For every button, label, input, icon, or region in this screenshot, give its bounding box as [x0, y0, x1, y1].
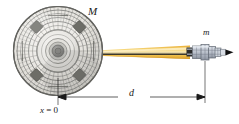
spacecraft-icon: [187, 45, 234, 61]
origin-label: x = 0: [40, 106, 58, 115]
origin-variable: x: [40, 105, 44, 115]
craft-mass-label: m: [203, 28, 210, 37]
physics-diagram: [0, 0, 239, 124]
distance-label: d: [129, 88, 134, 98]
origin-equals-zero: = 0: [46, 105, 58, 115]
tether-beam-icon: [96, 46, 190, 60]
station-mass-label: M: [88, 6, 97, 17]
